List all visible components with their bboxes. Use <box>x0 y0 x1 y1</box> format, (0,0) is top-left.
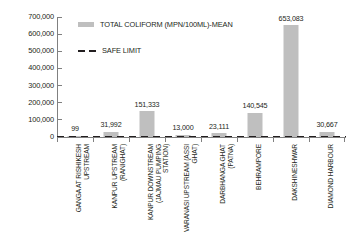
y-axis-tick-label: 200,000 <box>28 98 54 108</box>
legend-label-total-coliform: TOTAL COLIFORM (MPN/100ML)-MEAN <box>100 20 233 29</box>
x-axis-label: KANPUR UPSTREAM (RANIGHAT) <box>93 144 129 244</box>
x-axis-tick-mark <box>57 138 58 142</box>
bar-value-label: 99 <box>71 124 79 133</box>
y-axis-tick-label: 400,000 <box>28 63 54 73</box>
x-axis-tick-mark <box>93 138 94 142</box>
x-axis-label: VARANASI UPSTREAM (ASSI GHAT) <box>165 144 201 244</box>
x-axis-tick-mark <box>237 138 238 142</box>
legend-label-safe-limit: SAFE LIMIT <box>102 46 141 55</box>
bar[interactable] <box>248 113 263 137</box>
bar-group: 23,111 <box>201 17 237 137</box>
x-axis-label: DAKSHINESHWAR <box>273 144 309 244</box>
x-axis-tick-mark <box>344 138 345 142</box>
bar-group: 653,083 <box>273 17 309 137</box>
y-axis-tick: 700,000 <box>0 12 62 22</box>
y-axis-tick: 500,000 <box>0 46 62 56</box>
legend-swatch-bar-icon <box>78 22 94 27</box>
y-axis-tick-label: 300,000 <box>28 81 54 91</box>
x-axis-label-text: DARBHANGA GHAT (PATNA) <box>219 144 234 244</box>
plot-area: 9931,992151,33313,00023,111140,545653,08… <box>57 17 345 137</box>
bar-group: 151,333 <box>129 17 165 137</box>
y-axis-tick-label: 700,000 <box>28 12 54 22</box>
legend-swatch-dashed-line-icon <box>78 50 96 52</box>
x-axis-label: DIAMOND HARBOUR <box>309 144 345 244</box>
x-axis-tick-mark <box>129 138 130 142</box>
legend-item-total-coliform[interactable]: TOTAL COLIFORM (MPN/100ML)-MEAN <box>78 20 233 29</box>
x-axis-label-text: DAKSHINESHWAR <box>291 144 299 244</box>
bar[interactable] <box>284 25 299 137</box>
legend-item-safe-limit[interactable]: SAFE LIMIT <box>78 46 141 55</box>
x-axis-label: GANGA AT RISHIKESH UPSTREAM <box>57 144 93 244</box>
y-axis-tick: 400,000 <box>0 63 62 73</box>
y-axis-tick: 0 <box>0 132 62 142</box>
x-axis-label-text: GANGA AT RISHIKESH UPSTREAM <box>75 144 90 244</box>
x-axis-tick-mark <box>165 138 166 142</box>
x-axis-tick-mark <box>273 138 274 142</box>
x-axis-ticks <box>57 138 345 143</box>
bar-value-label: 31,992 <box>100 120 121 129</box>
y-axis-tick: 300,000 <box>0 81 62 91</box>
y-axis-tick: 100,000 <box>0 115 62 125</box>
y-axis-tick: 200,000 <box>0 98 62 108</box>
bar-group: 99 <box>57 17 93 137</box>
x-axis-label-text: BEHRAMPORE <box>255 144 263 244</box>
bar-value-label: 151,333 <box>135 100 160 109</box>
bar-value-label: 13,000 <box>172 123 193 132</box>
x-axis-label: BEHRAMPORE <box>237 144 273 244</box>
x-axis-tick-mark <box>309 138 310 142</box>
coliform-bar-chart: 0100,000200,000300,000400,000500,000600,… <box>0 0 360 246</box>
x-axis-label-text: DIAMOND HARBOUR <box>327 144 335 244</box>
bar-group: 140,545 <box>237 17 273 137</box>
bar-group: 13,000 <box>165 17 201 137</box>
x-axis-label: KANPUR DOWNSTREAM (JAJMAU PUMPING STATIO… <box>129 144 165 244</box>
bar-value-label: 30,667 <box>316 120 337 129</box>
x-axis-label: DARBHANGA GHAT (PATNA) <box>201 144 237 244</box>
x-axis-label-text: KANPUR UPSTREAM (RANIGHAT) <box>111 144 126 244</box>
x-axis-tick-mark <box>201 138 202 142</box>
y-axis-tick-label: 500,000 <box>28 46 54 56</box>
bar-value-label: 23,111 <box>209 122 229 131</box>
bar-value-label: 140,545 <box>243 101 268 110</box>
y-axis-tick-label: 100,000 <box>28 115 54 125</box>
bar-value-label: 653,083 <box>279 14 304 23</box>
bar-group: 30,667 <box>309 17 345 137</box>
x-axis-label-text: VARANASI UPSTREAM (ASSI GHAT) <box>183 144 198 244</box>
y-axis-tick: 600,000 <box>0 29 62 39</box>
bar-group: 31,992 <box>93 17 129 137</box>
x-axis-labels: GANGA AT RISHIKESH UPSTREAMKANPUR UPSTRE… <box>57 144 345 244</box>
y-axis-tick-label: 0 <box>50 132 54 142</box>
y-axis-tick-label: 600,000 <box>28 29 54 39</box>
bar[interactable] <box>140 111 155 137</box>
